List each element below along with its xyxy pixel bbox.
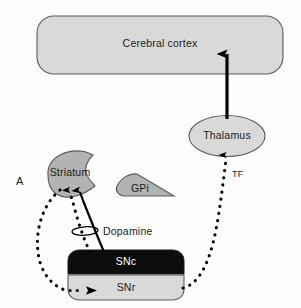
snc-striatum-dotted-path [70,192,90,252]
node-gpi: GPi [116,174,174,196]
dopamine-label: Dopamine [103,225,152,237]
cerebral-cortex-label: Cerebral cortex [123,37,198,49]
basal-ganglia-diagram: Cerebral cortex Thalamus Striatum GPi SN… [0,0,301,308]
node-cerebral-cortex: Cerebral cortex [37,16,283,74]
node-snc-snr-complex: SNc SNr [68,250,184,300]
thalamus-label: Thalamus [203,129,251,141]
gpi-label: GPi [131,182,149,194]
annotation-dopamine: Dopamine [72,225,153,237]
snc-label: SNc [116,255,136,267]
striatum-label: Striatum [50,166,91,178]
panel-letter: A [16,175,24,187]
snr-thalamus-dotted-path [183,160,226,288]
node-striatum: Striatum [48,151,95,197]
snr-label: SNr [117,281,136,293]
diagram-canvas: Cerebral cortex Thalamus Striatum GPi SN… [0,0,301,308]
connection-snc-to-striatum-solid [80,190,104,252]
tf-label: TF [232,169,244,179]
connection-snc-to-striatum-dotted [70,190,90,252]
node-thalamus: Thalamus [189,116,265,157]
connection-snr-to-thalamus: TF [183,155,244,288]
snc-striatum-solid-path [80,192,104,252]
striatum-snr-dotted-path [37,190,68,291]
